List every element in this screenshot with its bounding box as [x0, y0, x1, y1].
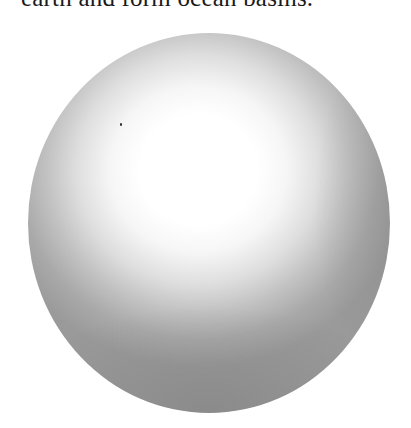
print-speck — [120, 123, 122, 126]
sphere-illustration — [28, 33, 390, 413]
caption-text: earth and form ocean basins. — [21, 0, 313, 10]
